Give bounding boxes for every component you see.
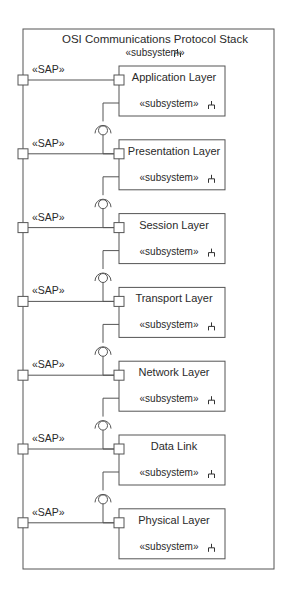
layer-name: Data Link (151, 440, 198, 452)
diagram-title: OSI Communications Protocol Stack (62, 33, 248, 45)
ball-socket-connector (95, 472, 119, 523)
sap-label: «SAP» (32, 432, 65, 444)
layer-name: Session Layer (139, 219, 209, 231)
layer-port[interactable] (114, 518, 124, 528)
layer-component[interactable]: Network Layer«subsystem» (119, 361, 225, 411)
provided-interface-ball-icon (99, 126, 108, 135)
sap-label: «SAP» (32, 211, 65, 223)
ball-socket-connector (95, 103, 119, 154)
outer-sap-port[interactable] (18, 444, 28, 454)
layer-component[interactable]: Session Layer«subsystem» (119, 214, 225, 264)
ball-socket-connector (95, 251, 119, 302)
provided-interface-ball-icon (99, 421, 108, 430)
outer-sap-port[interactable] (18, 370, 28, 380)
outer-sap-port[interactable] (18, 223, 28, 233)
provided-interface-ball-icon (99, 274, 108, 283)
layer-port[interactable] (114, 75, 124, 85)
layer-name: Transport Layer (135, 292, 213, 304)
outer-sap-port[interactable] (18, 149, 28, 159)
layer-stereotype: «subsystem» (140, 172, 199, 183)
ball-socket-connector (95, 324, 119, 375)
layer-component[interactable]: Transport Layer«subsystem» (119, 287, 225, 337)
sap-label: «SAP» (32, 137, 65, 149)
outer-sap-port[interactable] (18, 296, 28, 306)
layer-stereotype: «subsystem» (140, 393, 199, 404)
layer-port[interactable] (114, 296, 124, 306)
layer-stereotype: «subsystem» (140, 319, 199, 330)
provided-interface-ball-icon (99, 495, 108, 504)
outer-sap-port[interactable] (18, 518, 28, 528)
ball-socket-connector (95, 398, 119, 449)
sap-label: «SAP» (32, 284, 65, 296)
layer-stereotype: «subsystem» (140, 541, 199, 552)
layer-stereotype: «subsystem» (140, 98, 199, 109)
layer-name: Presentation Layer (128, 145, 221, 157)
layer-port[interactable] (114, 149, 124, 159)
layer-component[interactable]: Physical Layer«subsystem» (119, 509, 225, 559)
layer-port[interactable] (114, 223, 124, 233)
layer-port[interactable] (114, 370, 124, 380)
sap-label: «SAP» (32, 506, 65, 518)
layer-component[interactable]: Data Link«subsystem» (119, 435, 225, 485)
layer-name: Application Layer (132, 71, 217, 83)
osi-stack-diagram: OSI Communications Protocol Stack «subsy… (0, 0, 286, 594)
sap-label: «SAP» (32, 63, 65, 75)
provided-interface-ball-icon (99, 347, 108, 356)
provided-interface-ball-icon (99, 200, 108, 209)
layer-component[interactable]: Presentation Layer«subsystem» (119, 140, 225, 190)
layer-name: Network Layer (139, 366, 210, 378)
layer-component[interactable]: Application Layer«subsystem» (119, 66, 225, 116)
layer-port[interactable] (114, 444, 124, 454)
ball-socket-connector (95, 177, 119, 228)
layer-name: Physical Layer (138, 514, 210, 526)
sap-label: «SAP» (32, 358, 65, 370)
outer-sap-port[interactable] (18, 75, 28, 85)
layer-stereotype: «subsystem» (140, 246, 199, 257)
layer-stereotype: «subsystem» (140, 467, 199, 478)
